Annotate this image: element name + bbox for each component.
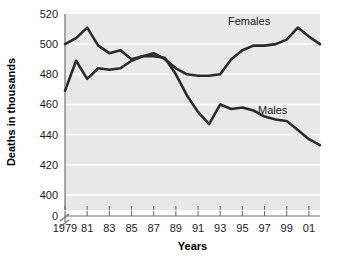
x-tick-label: 99 xyxy=(281,222,293,234)
x-axis-tick-labels: 19798183858789919395979901 xyxy=(53,222,315,234)
x-tick-label: 89 xyxy=(170,222,182,234)
x-tick-label: 01 xyxy=(303,222,315,234)
x-tick-label: 85 xyxy=(125,222,137,234)
y-tick-label: 500 xyxy=(40,38,58,50)
y-axis-tick-labels: 4004204404604805005200 xyxy=(40,8,58,222)
x-tick-label: 95 xyxy=(236,222,248,234)
series-label-females: Females xyxy=(228,15,271,27)
y-tick-label: 440 xyxy=(40,129,58,141)
x-tick-label: 93 xyxy=(214,222,226,234)
y-tick-label: 520 xyxy=(40,8,58,20)
x-tick-label: 97 xyxy=(258,222,270,234)
y-tick-label: 400 xyxy=(40,189,58,201)
y-tick-label: 460 xyxy=(40,98,58,110)
x-axis-title: Years xyxy=(178,240,207,252)
x-tick-label: 81 xyxy=(81,222,93,234)
y-tick-label: 480 xyxy=(40,68,58,80)
y-tick-label-zero: 0 xyxy=(52,210,58,222)
chart-container: 4004204404604805005200 19798183858789919… xyxy=(0,0,342,260)
series-label-males: Males xyxy=(258,104,288,116)
x-tick-label: 83 xyxy=(103,222,115,234)
y-tick-label: 420 xyxy=(40,159,58,171)
x-tick-label: 91 xyxy=(192,222,204,234)
y-axis-title: Deaths in thousands xyxy=(5,58,17,166)
line-chart: 4004204404604805005200 19798183858789919… xyxy=(0,0,342,260)
x-tick-label: 87 xyxy=(148,222,160,234)
